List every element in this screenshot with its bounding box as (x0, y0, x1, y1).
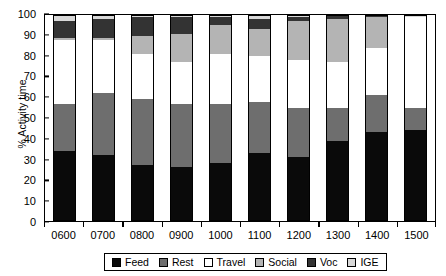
bar-segment-voc (209, 17, 232, 25)
bar-segment-ige (404, 15, 427, 17)
bar-segment-travel (326, 62, 349, 107)
stacked-bar[interactable] (404, 15, 427, 221)
x-tick-mark (358, 222, 359, 227)
x-tick-mark (122, 222, 123, 227)
bar-segment-rest (53, 104, 76, 151)
bar-segment-feed (53, 151, 76, 221)
bar-slot (162, 15, 201, 221)
bar-slot (279, 15, 318, 221)
y-tick-mark (44, 138, 49, 139)
y-tick-label: 100 (0, 8, 42, 20)
bar-segment-feed (287, 157, 310, 221)
legend-label: Rest (172, 256, 194, 268)
plot-area (44, 14, 436, 222)
stacked-bar[interactable] (209, 15, 232, 221)
x-tick-cell: 1200 (279, 222, 318, 246)
stacked-bar[interactable] (365, 15, 388, 221)
bar-segment-social (53, 38, 76, 40)
x-tick-cell: 0700 (83, 222, 122, 246)
bar-segment-ige (170, 15, 193, 17)
x-tick-mark (44, 222, 45, 227)
bar-segment-rest (287, 108, 310, 157)
bar-slot (84, 15, 123, 221)
x-tick-mark (162, 222, 163, 227)
bar-segment-social (92, 38, 115, 40)
legend-label: Feed (125, 256, 149, 268)
x-tick-label: 1400 (358, 229, 397, 241)
x-tick-cell: 0800 (122, 222, 161, 246)
bar-segment-ige (248, 15, 271, 19)
legend-label: IGE (360, 256, 378, 268)
bar-segment-voc (131, 17, 154, 36)
bar-segment-ige (92, 15, 115, 19)
x-tick-mark (435, 222, 436, 227)
legend-item-rest[interactable]: Rest (159, 256, 194, 268)
y-tick-mark (44, 159, 49, 160)
legend-item-feed[interactable]: Feed (112, 256, 149, 268)
bar-segment-rest (131, 99, 154, 165)
legend-swatch-icon (307, 258, 316, 267)
bar-segment-travel (92, 40, 115, 94)
bar-segment-social (131, 36, 154, 55)
legend-item-ige[interactable]: IGE (347, 256, 378, 268)
bar-segment-social (365, 17, 388, 48)
bar-segment-feed (248, 153, 271, 221)
bar-segment-voc (53, 21, 76, 37)
x-tick-label: 1300 (318, 229, 357, 241)
stacked-bar[interactable] (287, 15, 310, 221)
x-tick-label: 1000 (201, 229, 240, 241)
y-tick-mark (44, 76, 49, 77)
y-tick-mark (44, 55, 49, 56)
y-tick-label: 50 (0, 112, 42, 124)
bar-segment-travel (53, 40, 76, 104)
bar-segment-feed (209, 163, 232, 221)
y-tick-mark (44, 13, 49, 14)
x-tick-mark (397, 222, 398, 227)
bar-segment-social (170, 34, 193, 63)
y-tick-mark (44, 97, 49, 98)
x-tick-label: 1500 (397, 229, 436, 241)
bar-segment-ige (287, 15, 310, 17)
stacked-bar[interactable] (248, 15, 271, 221)
bar-segment-travel (365, 48, 388, 95)
legend-swatch-icon (204, 258, 213, 267)
stacked-bar[interactable] (131, 15, 154, 221)
stacked-bar[interactable] (53, 15, 76, 221)
bar-segment-travel (131, 54, 154, 99)
bar-segment-travel (170, 62, 193, 103)
bar-slot (240, 15, 279, 221)
y-tick-label: 80 (0, 50, 42, 62)
bar-slot (123, 15, 162, 221)
bar-segment-ige (209, 15, 232, 17)
bar-segment-rest (209, 104, 232, 164)
legend-label: Voc (320, 256, 338, 268)
stacked-bar[interactable] (170, 15, 193, 221)
y-tick-label: 0 (0, 216, 42, 228)
legend-swatch-icon (112, 258, 121, 267)
x-tick-cell: 1500 (397, 222, 436, 246)
stacked-bar[interactable] (92, 15, 115, 221)
legend-item-voc[interactable]: Voc (307, 256, 338, 268)
bar-segment-voc (92, 19, 115, 38)
x-tick-cell: 1100 (240, 222, 279, 246)
bar-segment-rest (92, 93, 115, 155)
x-tick-cell: 1400 (358, 222, 397, 246)
stacked-bar-chart: % Activity time 060007000800090010001100… (0, 0, 446, 276)
y-tick-mark (44, 34, 49, 35)
x-tick-cell: 0600 (44, 222, 83, 246)
legend-item-social[interactable]: Social (255, 256, 297, 268)
bar-segment-feed (92, 155, 115, 221)
y-tick-mark (44, 221, 49, 222)
legend-item-travel[interactable]: Travel (204, 256, 246, 268)
legend-swatch-icon (159, 258, 168, 267)
bar-segment-rest (365, 95, 388, 132)
x-tick-label: 0700 (83, 229, 122, 241)
stacked-bar[interactable] (326, 15, 349, 221)
x-tick-cell: 1300 (318, 222, 357, 246)
y-tick-mark (44, 117, 49, 118)
x-tick-label: 1200 (279, 229, 318, 241)
x-tick-label: 0800 (122, 229, 161, 241)
bar-slot (396, 15, 435, 221)
bar-segment-ige (131, 15, 154, 17)
bar-slot (318, 15, 357, 221)
